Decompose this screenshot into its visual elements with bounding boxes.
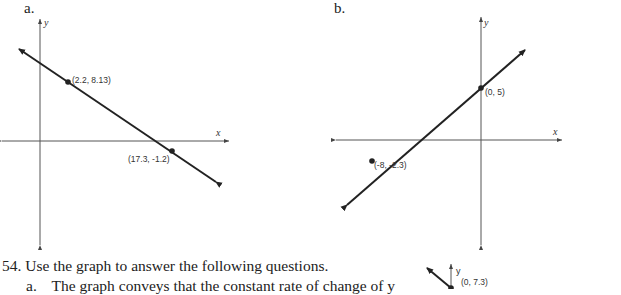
question-text: Use the graph to answer the following qu… [25,257,328,274]
graph-b-x-label: x [553,126,557,137]
graph-b-point-1-label: (0, 5) [485,87,505,97]
sub-question-text: The graph conveys that the constant rate… [52,277,395,294]
graph-a-point-1-label: (2.2, 8.13) [72,75,111,85]
graph-a-point-2 [169,148,175,154]
graph-a-axes [2,19,229,245]
sub-question-label: a. [26,277,48,295]
graph-a-point-2-label: (17.3, -1.2) [128,154,170,164]
graph-c-y-label: y [456,266,461,276]
graph-b-y-label: y [484,17,488,28]
graph-b-point-2-label: (-8, -2.3) [374,160,407,170]
question-number: 54. [2,257,21,274]
graph-b-point-1 [478,85,484,91]
graph-b-axes [336,17,562,245]
graph-c-point-label: (0, 7.3) [461,277,488,287]
graph-b-label: b. [334,0,345,17]
graph-a-x-label: x [216,127,220,138]
question-54: 54. Use the graph to answer the followin… [2,257,328,275]
graph-a-line [19,49,216,182]
graph-c-line [427,268,451,288]
graph-a-point-1 [65,79,71,85]
graph-b-line [347,50,525,205]
graph-a-y-label: y [44,17,48,28]
question-54a: a. The graph conveys that the constant r… [26,277,395,295]
